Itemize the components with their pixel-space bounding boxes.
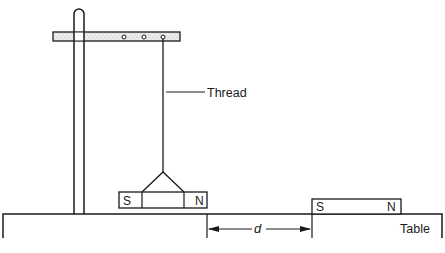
- stand: [53, 9, 180, 214]
- table: Table: [3, 214, 442, 238]
- table-magnet-south-pole: S: [316, 200, 324, 214]
- arrow-left-icon: [208, 226, 219, 232]
- distance-label: d: [254, 221, 262, 236]
- crossbar-hole: [161, 35, 165, 39]
- table-label: Table: [400, 222, 430, 236]
- arrow-right-icon: [300, 226, 311, 232]
- crossbar-hole: [142, 35, 146, 39]
- thread-label: Thread: [207, 86, 247, 100]
- hanging-magnet-north-pole: N: [195, 194, 204, 208]
- table-magnet: S N: [312, 199, 401, 214]
- magnet-diagram: Thread S N Table S N d: [0, 0, 445, 253]
- crossbar-hole: [122, 35, 126, 39]
- hanging-magnet-south-pole: S: [123, 194, 131, 208]
- magnet-sling: [142, 172, 184, 192]
- hanging-magnet: S N: [119, 192, 207, 208]
- distance-dimension: d: [207, 214, 312, 238]
- table-magnet-north-pole: N: [387, 200, 396, 214]
